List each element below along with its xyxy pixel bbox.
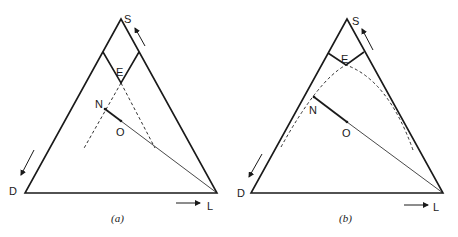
arrow-d-icon	[21, 150, 34, 175]
arrow-d-icon	[249, 154, 262, 177]
arrow-s-icon	[362, 29, 373, 50]
label-n: N	[309, 104, 317, 116]
caption-a: (a)	[111, 212, 124, 225]
triangle-outline	[25, 19, 217, 193]
label-o: O	[116, 126, 125, 138]
segment-n-o	[314, 97, 347, 122]
label-l: L	[207, 200, 213, 212]
arrow-s-icon	[135, 28, 145, 46]
label-e: E	[116, 66, 123, 78]
segment-n-o	[105, 109, 121, 121]
tie-line-o-l	[347, 122, 443, 193]
panel-a: S D L E N O (a)	[9, 13, 217, 225]
label-d: D	[9, 185, 17, 197]
point-n	[313, 96, 316, 99]
point-o	[346, 121, 349, 124]
label-o: O	[342, 127, 351, 139]
triangle-outline	[251, 19, 443, 193]
caption-b: (b)	[339, 212, 352, 225]
point-o	[120, 120, 123, 123]
label-l: L	[433, 201, 439, 213]
label-d: D	[237, 187, 245, 199]
panel-b: S D L E N O (b)	[237, 15, 443, 225]
dashed-boundary-right	[121, 83, 155, 148]
label-e: E	[341, 53, 348, 65]
tie-line-o-l	[121, 121, 217, 193]
label-n: N	[95, 98, 103, 110]
ternary-diagram-figure: S D L E N O (a) S D L E N O (b)	[0, 0, 458, 237]
point-n	[104, 108, 107, 111]
label-s: S	[124, 13, 131, 25]
label-s: S	[352, 15, 359, 27]
